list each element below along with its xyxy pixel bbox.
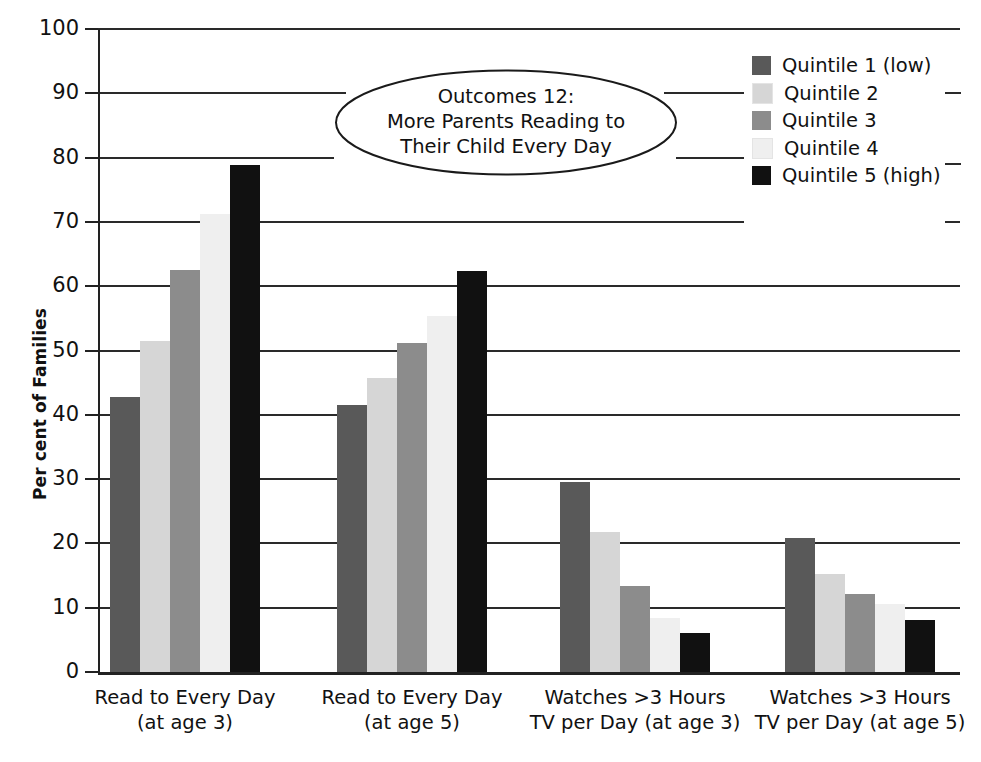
chart-title-line: More Parents Reading to bbox=[387, 110, 625, 135]
title-callout: Outcomes 12:More Parents Reading toTheir… bbox=[334, 69, 678, 176]
x-axis-category-label: Read to Every Day(at age 5) bbox=[292, 686, 532, 736]
legend-color-swatch bbox=[752, 166, 771, 185]
legend-item[interactable]: Quintile 1 (low) bbox=[752, 52, 941, 80]
x-axis-category-label-line: TV per Day (at age 3) bbox=[515, 711, 755, 736]
x-axis-category-label-line: Watches >3 Hours bbox=[740, 686, 980, 711]
legend-item[interactable]: Quintile 4 bbox=[752, 135, 941, 163]
gridline-stub bbox=[945, 92, 961, 94]
chart-legend: Quintile 1 (low)Quintile 2Quintile 3Quin… bbox=[752, 52, 941, 190]
x-axis-category-label-line: (at age 5) bbox=[292, 711, 532, 736]
x-axis-category-label-line: Read to Every Day bbox=[65, 686, 305, 711]
x-axis-category-label: Read to Every Day(at age 3) bbox=[65, 686, 305, 736]
x-axis-category-label-line: Read to Every Day bbox=[292, 686, 532, 711]
chart-title: Outcomes 12:More Parents Reading toTheir… bbox=[334, 69, 678, 176]
legend-color-swatch bbox=[752, 111, 771, 130]
legend-item-label: Quintile 1 (low) bbox=[782, 56, 931, 76]
legend-color-swatch bbox=[752, 138, 773, 159]
legend-item[interactable]: Quintile 2 bbox=[752, 80, 941, 108]
chart-title-line: Outcomes 12: bbox=[438, 85, 575, 110]
legend-color-swatch bbox=[752, 83, 773, 104]
chart-figure: 0102030405060708090100 Per cent of Famil… bbox=[0, 0, 981, 762]
legend-item[interactable]: Quintile 5 (high) bbox=[752, 162, 941, 190]
gridline-stub bbox=[945, 163, 961, 165]
x-axis-category-label-line: TV per Day (at age 5) bbox=[740, 711, 980, 736]
x-axis-category-label-line: Watches >3 Hours bbox=[515, 686, 755, 711]
chart-title-line: Their Child Every Day bbox=[400, 135, 611, 160]
x-axis-category-label: Watches >3 HoursTV per Day (at age 3) bbox=[515, 686, 755, 736]
legend-color-swatch bbox=[752, 56, 771, 75]
legend-item-label: Quintile 5 (high) bbox=[782, 166, 941, 186]
x-axis-category-label-line: (at age 3) bbox=[65, 711, 305, 736]
legend-item-label: Quintile 3 bbox=[782, 111, 877, 131]
legend-item-label: Quintile 2 bbox=[784, 84, 879, 104]
legend-item-label: Quintile 4 bbox=[784, 139, 879, 159]
x-axis-category-label: Watches >3 HoursTV per Day (at age 5) bbox=[740, 686, 980, 736]
legend-item[interactable]: Quintile 3 bbox=[752, 107, 941, 135]
